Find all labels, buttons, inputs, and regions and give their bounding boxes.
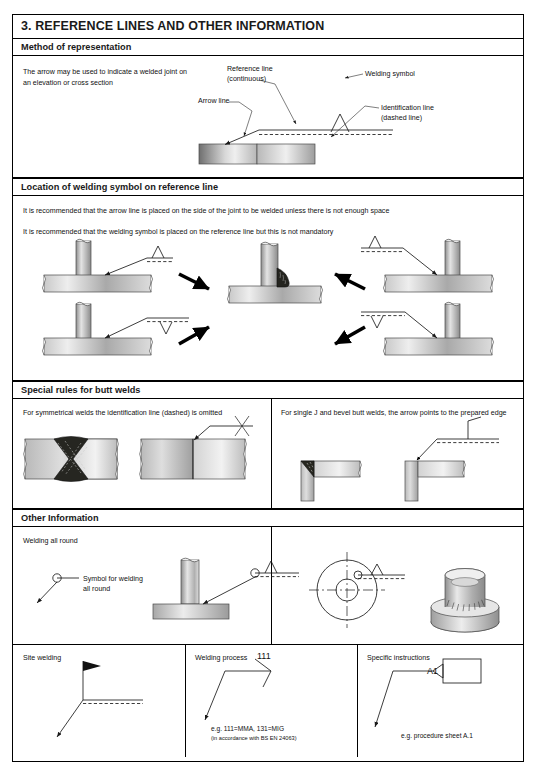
all-round-tjoint (153, 558, 299, 619)
tjoint-bottom-right (361, 302, 494, 355)
method-diagram (13, 56, 525, 178)
panel-other-information: Welding all round Symbol for welding all… (13, 527, 523, 645)
specific-instructions-symbol (375, 659, 481, 727)
flange-plan-view (309, 552, 405, 628)
site-welding-symbol (57, 661, 143, 737)
flange-isometric-view (431, 569, 499, 633)
band-special-rules-butt-welds: Special rules for butt welds (13, 381, 523, 399)
other-information-diagrams (13, 527, 525, 645)
location-diagrams (13, 196, 525, 381)
tjoint-bottom-left (43, 302, 190, 355)
welding-process-symbol (205, 659, 271, 720)
all-round-symbol-key (37, 574, 79, 603)
symmetrical-weld-symbol (140, 416, 253, 479)
bevel-with-symbol (405, 417, 499, 501)
panel-method-of-representation: The arrow may be used to indicate a weld… (13, 56, 523, 178)
double-v-butt-weld-section (24, 437, 119, 482)
band-location-of-welding-symbol: Location of welding symbol on reference … (13, 178, 523, 196)
bevel-prepared-corner (301, 461, 361, 501)
bottom-row-diagrams (13, 645, 525, 757)
butt-weld-diagrams (13, 399, 525, 509)
band-other-information: Other Information (13, 509, 523, 527)
tjoint-top-right (361, 236, 494, 292)
panel-location-of-welding-symbol: It is recommended that the arrow line is… (13, 196, 523, 381)
tjoint-top-left (43, 239, 174, 292)
welding-symbols-reference-page: 3. REFERENCE LINES AND OTHER INFORMATION… (0, 0, 537, 777)
panel-butt-welds: For symmetrical welds the identification… (13, 399, 523, 509)
page-title: 3. REFERENCE LINES AND OTHER INFORMATION (13, 15, 523, 39)
band-method-of-representation: Method of representation (13, 39, 523, 56)
panel-bottom-row: Site welding Welding process Specific in… (13, 645, 523, 757)
tjoint-centre-welded (228, 242, 323, 303)
reference-sheet: 3. REFERENCE LINES AND OTHER INFORMATION… (12, 14, 524, 762)
